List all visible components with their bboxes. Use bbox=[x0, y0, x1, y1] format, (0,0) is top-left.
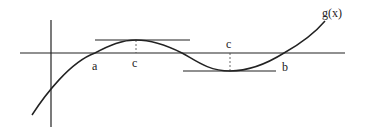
label-a: a bbox=[92, 59, 98, 73]
label-c-minimum: c bbox=[226, 37, 231, 51]
label-g-of-x: g(x) bbox=[322, 6, 342, 20]
label-b: b bbox=[282, 60, 288, 74]
function-graph-diagram: a c c b g(x) bbox=[0, 0, 365, 134]
label-c-maximum: c bbox=[132, 56, 137, 70]
